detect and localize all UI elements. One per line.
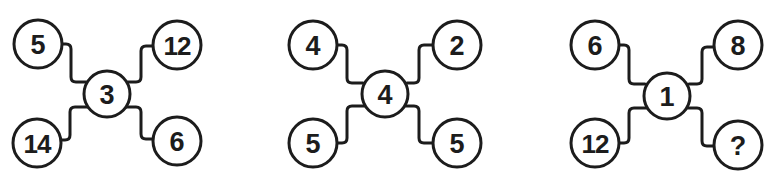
label-bottom-left: 14 — [24, 129, 52, 159]
connector-bottom-right — [127, 107, 153, 139]
connector-bottom-left — [619, 108, 646, 143]
diagram-2: 4 2 4 5 5 — [289, 21, 481, 167]
connector-top-left — [62, 44, 86, 82]
connector-top-right — [689, 47, 714, 84]
connector-bottom-left — [61, 107, 87, 140]
label-center: 1 — [659, 82, 674, 112]
label-top-left: 5 — [30, 30, 45, 60]
label-top-left: 4 — [305, 31, 320, 61]
diagram-3: 6 8 1 12 ? — [571, 21, 762, 169]
puzzle-canvas: 5 12 3 14 6 4 2 4 5 5 6 8 1 12 — [0, 0, 767, 189]
label-bottom-right-unknown: ? — [730, 131, 747, 161]
label-bottom-left: 12 — [582, 129, 609, 159]
label-bottom-right: 5 — [449, 129, 464, 159]
label-center: 3 — [99, 80, 114, 110]
connector-top-left — [619, 45, 645, 84]
label-bottom-left: 5 — [305, 129, 320, 159]
label-top-right: 8 — [730, 31, 745, 61]
label-top-right: 2 — [449, 31, 464, 61]
diagram-1: 5 12 3 14 6 — [13, 20, 201, 167]
label-center: 4 — [377, 80, 392, 110]
connector-bottom-right — [688, 108, 714, 146]
connector-bottom-right — [406, 106, 433, 143]
connector-top-left — [337, 45, 363, 83]
label-top-left: 6 — [587, 31, 602, 61]
label-bottom-right: 6 — [169, 127, 184, 157]
connector-bottom-left — [337, 106, 364, 143]
connector-top-right — [128, 46, 153, 82]
connector-top-right — [407, 45, 433, 83]
label-top-right: 12 — [164, 31, 191, 61]
